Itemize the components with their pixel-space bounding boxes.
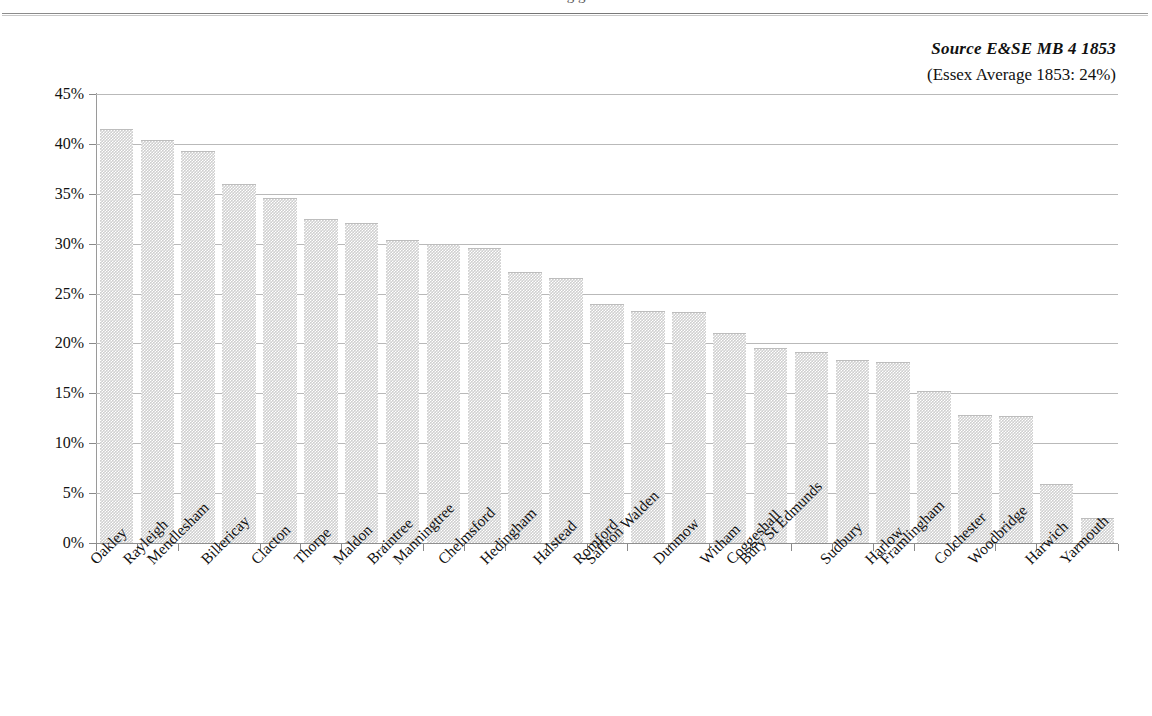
x-tick-10 (505, 544, 506, 551)
bar-thorpe[interactable] (304, 219, 338, 543)
bar-woodbridge[interactable] (999, 416, 1033, 543)
bar-hedingham[interactable] (508, 272, 542, 543)
y-tick-label-40%: 40% (14, 136, 84, 152)
x-tick-14 (668, 544, 669, 551)
x-tick-15 (709, 544, 710, 551)
x-tick-end (1118, 544, 1119, 551)
y-tick-35 (89, 194, 96, 195)
y-tick-45 (89, 94, 96, 95)
y-tick-label-25%: 25% (14, 286, 84, 302)
bar-witham[interactable] (713, 333, 747, 543)
bar-romford[interactable] (590, 304, 624, 543)
x-tick-0 (96, 544, 97, 551)
bar-billericay[interactable] (222, 184, 256, 543)
bar-harwich[interactable] (1040, 484, 1074, 543)
bar-bury-st-edmunds[interactable] (795, 352, 829, 543)
bar-braintree[interactable] (386, 240, 420, 543)
x-tick-18 (832, 544, 833, 551)
bar-maldon[interactable] (345, 223, 379, 543)
bar-halstead[interactable] (549, 278, 583, 543)
y-tick-label-45%: 45% (14, 86, 84, 102)
x-tick-21 (954, 544, 955, 551)
y-tick-label-10%: 10% (14, 435, 84, 451)
bar-clacton[interactable] (263, 198, 297, 543)
y-tick-label-35%: 35% (14, 186, 84, 202)
bar-colchester[interactable] (958, 415, 992, 543)
y-tick-5 (89, 493, 96, 494)
bar-sudbury[interactable] (836, 360, 870, 543)
y-tick-label-5%: 5% (14, 485, 84, 501)
bar-manningtree[interactable] (427, 244, 461, 543)
y-tick-10 (89, 443, 96, 444)
y-tick-20 (89, 343, 96, 344)
x-tick-2 (178, 544, 179, 551)
bar-chelmsford[interactable] (468, 248, 502, 543)
gridline-40 (96, 144, 1118, 145)
bar-oakley[interactable] (100, 129, 134, 543)
gridline-45 (96, 94, 1118, 95)
x-tick-8 (423, 544, 424, 551)
x-tick-11 (546, 544, 547, 551)
y-tick-30 (89, 244, 96, 245)
bar-dunmow[interactable] (672, 312, 706, 543)
x-tick-9 (464, 544, 465, 551)
y-tick-25 (89, 294, 96, 295)
gridline-0 (96, 543, 1118, 544)
y-tick-label-30%: 30% (14, 236, 84, 252)
x-tick-23 (1036, 544, 1037, 551)
bar-saffron-walden[interactable] (631, 311, 665, 543)
y-tick-label-0%: 0% (14, 535, 84, 551)
x-tick-22 (995, 544, 996, 551)
x-tick-4 (260, 544, 261, 551)
y-tick-15 (89, 393, 96, 394)
bar-coggeshall[interactable] (754, 348, 788, 543)
y-tick-0 (89, 543, 96, 544)
y-tick-label-20%: 20% (14, 335, 84, 351)
bar-chart: 0%5%10%15%20%25%30%35%40%45% OakleyRayle… (0, 0, 1152, 716)
x-tick-1 (137, 544, 138, 551)
x-tick-24 (1077, 544, 1078, 551)
bar-harlow[interactable] (876, 362, 910, 543)
x-tick-5 (300, 544, 301, 551)
x-tick-17 (791, 544, 792, 551)
x-tick-20 (914, 544, 915, 551)
bar-mendlesham[interactable] (181, 151, 215, 543)
x-tick-7 (382, 544, 383, 551)
x-tick-13 (627, 544, 628, 551)
plot-area (96, 94, 1118, 543)
x-tick-3 (219, 544, 220, 551)
bar-yarmouth[interactable] (1081, 518, 1115, 543)
bar-rayleigh[interactable] (141, 140, 175, 543)
x-tick-19 (873, 544, 874, 551)
y-tick-label-15%: 15% (14, 385, 84, 401)
x-tick-16 (750, 544, 751, 551)
x-tick-12 (587, 544, 588, 551)
bar-framlingham[interactable] (917, 391, 951, 543)
x-tick-6 (341, 544, 342, 551)
y-tick-40 (89, 144, 96, 145)
